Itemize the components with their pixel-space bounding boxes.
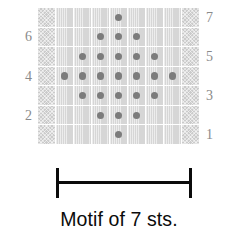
- chart-cell: [128, 125, 146, 145]
- chart-cell: [146, 86, 164, 106]
- chart-cell: [164, 47, 182, 67]
- chart-cell: [164, 106, 182, 126]
- purl-stitch-dot: [115, 131, 122, 138]
- purl-stitch-dot: [151, 92, 158, 99]
- chart-cell: [74, 47, 92, 67]
- chart-cell: [110, 28, 128, 48]
- chart-cell: [56, 8, 74, 28]
- chart-cell: [74, 8, 92, 28]
- chart-cell: [164, 125, 182, 145]
- purl-stitch-dot: [61, 72, 68, 79]
- purl-stitch-dot: [133, 53, 140, 60]
- chart-cell: [74, 28, 92, 48]
- row-number-label-5: 5: [206, 50, 232, 64]
- purl-stitch-dot: [115, 53, 122, 60]
- chart-cell-selvedge: [182, 28, 200, 48]
- purl-stitch-dot: [133, 33, 140, 40]
- chart-cell: [74, 67, 92, 87]
- chart-cell-selvedge: [38, 67, 56, 87]
- chart-cell: [110, 8, 128, 28]
- purl-stitch-dot: [115, 14, 122, 21]
- chart-cell-selvedge: [38, 8, 56, 28]
- row-number-label-2: 2: [0, 109, 32, 123]
- chart-cell-selvedge: [38, 47, 56, 67]
- chart-cell: [56, 125, 74, 145]
- row-number-label-4: 4: [0, 70, 32, 84]
- chart-cell: [110, 106, 128, 126]
- purl-stitch-dot: [97, 92, 104, 99]
- row-number-label-3: 3: [206, 89, 232, 103]
- row-number-label-6: 6: [0, 30, 32, 44]
- chart-cell: [92, 28, 110, 48]
- chart-cell: [146, 125, 164, 145]
- chart-cell: [164, 8, 182, 28]
- chart-cell: [128, 67, 146, 87]
- chart-cell-selvedge: [182, 67, 200, 87]
- bracket-cap-right-icon: [189, 168, 192, 198]
- chart-cell: [128, 8, 146, 28]
- purl-stitch-dot: [79, 72, 86, 79]
- chart-cell: [92, 8, 110, 28]
- chart-cell: [56, 106, 74, 126]
- purl-stitch-dot: [133, 112, 140, 119]
- chart-cell: [164, 67, 182, 87]
- chart-cell: [92, 47, 110, 67]
- chart-cell-selvedge: [38, 28, 56, 48]
- chart-cell: [110, 125, 128, 145]
- motif-width-bracket: [56, 168, 192, 198]
- chart-cell: [56, 28, 74, 48]
- chart-cell: [146, 106, 164, 126]
- chart-cell: [146, 67, 164, 87]
- chart-cell: [146, 47, 164, 67]
- chart-cell: [92, 67, 110, 87]
- purl-stitch-dot: [97, 72, 104, 79]
- chart-cell: [110, 47, 128, 67]
- chart-cell: [110, 86, 128, 106]
- chart-cell: [128, 106, 146, 126]
- chart-cell-selvedge: [182, 86, 200, 106]
- purl-stitch-dot: [97, 33, 104, 40]
- chart-cell: [110, 67, 128, 87]
- purl-stitch-dot: [79, 53, 86, 60]
- purl-stitch-dot: [115, 92, 122, 99]
- purl-stitch-dot: [115, 72, 122, 79]
- chart-cell: [74, 125, 92, 145]
- chart-cell: [56, 86, 74, 106]
- row-number-label-1: 1: [206, 128, 232, 142]
- purl-stitch-dot: [151, 72, 158, 79]
- purl-stitch-dot: [115, 112, 122, 119]
- purl-stitch-dot: [169, 72, 176, 79]
- knitting-motif-chart-figure: 6427531 Motif of 7 sts.: [0, 0, 238, 250]
- purl-stitch-dot: [133, 72, 140, 79]
- purl-stitch-dot: [115, 33, 122, 40]
- row-number-label-7: 7: [206, 11, 232, 25]
- motif-caption: Motif of 7 sts.: [0, 208, 238, 231]
- chart-cell: [146, 8, 164, 28]
- chart-cell: [56, 67, 74, 87]
- chart-cell: [164, 28, 182, 48]
- chart-cell: [164, 86, 182, 106]
- chart-cell: [128, 28, 146, 48]
- chart-cell: [56, 47, 74, 67]
- chart-cell: [74, 86, 92, 106]
- purl-stitch-dot: [79, 92, 86, 99]
- purl-stitch-dot: [151, 53, 158, 60]
- stitch-chart-grid: [38, 8, 200, 145]
- bracket-horizontal-bar: [56, 181, 192, 184]
- chart-cell: [128, 86, 146, 106]
- chart-cell-selvedge: [182, 8, 200, 28]
- purl-stitch-dot: [97, 112, 104, 119]
- chart-cell: [146, 28, 164, 48]
- chart-cell-selvedge: [38, 125, 56, 145]
- chart-cell: [74, 106, 92, 126]
- chart-cell-selvedge: [182, 125, 200, 145]
- chart-cell-selvedge: [38, 86, 56, 106]
- chart-cell: [128, 47, 146, 67]
- purl-stitch-dot: [133, 92, 140, 99]
- chart-cell-selvedge: [182, 106, 200, 126]
- chart-cell-selvedge: [38, 106, 56, 126]
- chart-cell-selvedge: [182, 47, 200, 67]
- chart-cell: [92, 86, 110, 106]
- chart-cell: [92, 106, 110, 126]
- chart-cell: [92, 125, 110, 145]
